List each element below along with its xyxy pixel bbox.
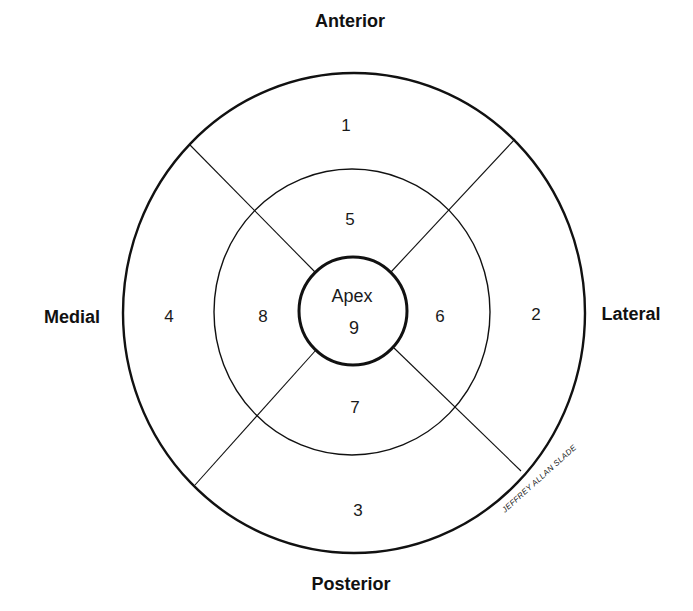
segment-9: 9 xyxy=(349,318,359,338)
apex-label: Apex xyxy=(331,286,372,306)
artist-signature: JEFFREY ALLAN SLADE xyxy=(500,443,579,515)
segment-7: 7 xyxy=(350,398,359,417)
segment-1: 1 xyxy=(341,116,350,135)
segment-4: 4 xyxy=(164,307,173,326)
segment-8: 8 xyxy=(258,307,267,326)
apex-circle xyxy=(299,257,407,365)
spoke-lower-left xyxy=(195,350,316,485)
spoke-upper-right xyxy=(391,139,515,272)
bullseye-diagram: Anterior Posterior Medial Lateral 1 2 3 … xyxy=(0,0,693,611)
segment-6: 6 xyxy=(435,307,444,326)
label-anterior: Anterior xyxy=(315,11,385,31)
segment-5: 5 xyxy=(345,210,354,229)
label-posterior: Posterior xyxy=(311,574,390,594)
label-lateral: Lateral xyxy=(601,304,660,324)
label-medial: Medial xyxy=(44,307,100,327)
segment-2: 2 xyxy=(531,305,540,324)
spoke-lower-right xyxy=(394,348,521,471)
segment-3: 3 xyxy=(353,501,362,520)
spoke-upper-left xyxy=(190,145,315,272)
